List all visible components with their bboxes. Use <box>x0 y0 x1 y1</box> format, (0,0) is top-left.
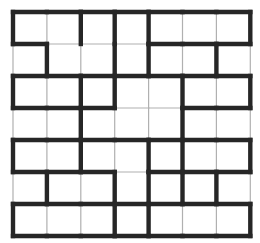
maze-cell <box>183 108 217 140</box>
maze-cell <box>216 44 250 76</box>
maze-cell <box>115 172 149 204</box>
maze-cell <box>47 44 81 76</box>
maze-cell <box>216 12 250 44</box>
maze-cell <box>216 140 250 172</box>
maze-cell <box>183 204 217 236</box>
maze-cell <box>47 76 81 108</box>
maze-cell <box>149 140 183 172</box>
maze-cell <box>47 140 81 172</box>
maze-cell <box>216 172 250 204</box>
maze-cell <box>47 108 81 140</box>
maze-cell <box>47 204 81 236</box>
maze-cell <box>81 76 115 108</box>
maze-cell <box>183 44 217 76</box>
maze-cell <box>149 76 183 108</box>
maze-cell <box>115 108 149 140</box>
maze-cell <box>183 76 217 108</box>
maze-cell <box>115 44 149 76</box>
maze-cell <box>81 172 115 204</box>
maze-cell <box>115 140 149 172</box>
maze-grid-svg <box>0 0 260 243</box>
maze-cell <box>13 12 47 44</box>
maze-cell <box>81 12 115 44</box>
maze-cell <box>81 44 115 76</box>
maze-cell <box>149 44 183 76</box>
maze-cell <box>149 172 183 204</box>
maze-cell <box>47 12 81 44</box>
maze-cell <box>149 12 183 44</box>
maze-cell <box>81 108 115 140</box>
maze-cell <box>149 204 183 236</box>
maze-cell <box>115 204 149 236</box>
maze-cell <box>216 204 250 236</box>
maze-cell <box>13 44 47 76</box>
maze-cell <box>81 204 115 236</box>
maze-cell <box>13 108 47 140</box>
maze-cell <box>13 140 47 172</box>
maze-cell <box>216 108 250 140</box>
maze-cell <box>183 140 217 172</box>
maze-cell <box>81 140 115 172</box>
maze-cell <box>183 172 217 204</box>
maze-cell <box>183 12 217 44</box>
maze-cell <box>13 204 47 236</box>
maze-cell <box>115 76 149 108</box>
maze-cell <box>13 172 47 204</box>
maze-cell <box>149 108 183 140</box>
maze-grid-figure <box>0 0 260 243</box>
maze-cell <box>115 12 149 44</box>
maze-cell <box>216 76 250 108</box>
maze-cell <box>13 76 47 108</box>
maze-cell <box>47 172 81 204</box>
